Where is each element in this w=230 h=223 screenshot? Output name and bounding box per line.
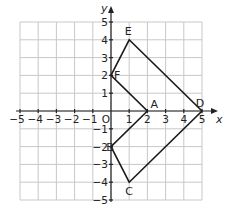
point-label-b: B (106, 141, 114, 154)
y-tick-label: −4 (93, 176, 109, 188)
x-tick-label: 5 (199, 113, 206, 125)
x-tick-label: 1 (126, 113, 133, 125)
point-label-c: C (125, 185, 133, 198)
plot-canvas: −5−4−3−2−11234554321−1−2−3−4−5 ABCDEF x … (0, 0, 230, 223)
y-tick-label: 2 (101, 69, 108, 81)
point-label-e: E (125, 25, 132, 38)
y-tick-label: 1 (101, 87, 108, 99)
coordinate-plane-diagram: −5−4−3−2−11234554321−1−2−3−4−5 ABCDEF x … (0, 0, 230, 223)
point-label-a: A (150, 98, 158, 111)
y-axis-label: y (100, 2, 108, 15)
x-tick-label: −2 (64, 113, 79, 125)
x-tick-label: 4 (180, 113, 187, 125)
y-tick-label: 5 (101, 16, 108, 28)
x-tick-label: −5 (9, 113, 24, 125)
point-label-f: F (114, 69, 120, 82)
y-tick-label: 3 (101, 52, 108, 64)
x-tick-label: −4 (27, 113, 43, 125)
point-label-d: D (196, 97, 204, 110)
y-tick-label: −5 (93, 194, 108, 206)
origin-label: O (102, 113, 110, 125)
x-tick-label: 3 (162, 113, 169, 125)
y-tick-label: −3 (93, 158, 108, 170)
y-axis-arrow-icon (108, 6, 114, 13)
y-tick-label: 4 (101, 34, 108, 46)
axes (16, 6, 218, 202)
x-axis-label: x (215, 113, 223, 126)
x-tick-label: −3 (46, 113, 61, 125)
x-tick-label: 2 (144, 113, 151, 125)
